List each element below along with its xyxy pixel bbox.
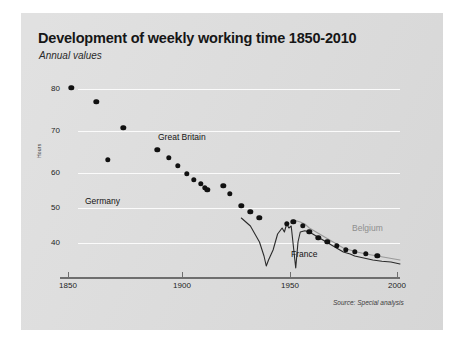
plot-area (60, 78, 400, 278)
y-tick-label: 60 (38, 168, 60, 177)
chart-subtitle: Annual values (39, 50, 102, 61)
annotation-france: France (291, 249, 317, 259)
annotation-belgium: Belgium (352, 223, 383, 233)
x-tick-label: 1950 (281, 281, 299, 290)
x-tick-label: 1900 (173, 281, 191, 290)
y-axis-title: Hours (36, 144, 42, 158)
chart-page: Development of weekly working time 1850-… (0, 0, 464, 345)
chart-title: Development of weekly working time 1850-… (38, 30, 356, 46)
x-tick-label: 2000 (388, 281, 406, 290)
annotation-germany: Germany (85, 196, 120, 206)
y-tick-label: 70 (38, 126, 60, 135)
source-note: Source: Special analysis (333, 299, 404, 306)
annotation-great-britain: Great Britain (158, 132, 206, 142)
y-tick-label: 40 (38, 238, 60, 247)
series-lines (60, 78, 400, 278)
y-tick-label: 80 (38, 84, 60, 93)
x-tick-label: 1850 (59, 281, 77, 290)
y-tick-label: 50 (38, 203, 60, 212)
